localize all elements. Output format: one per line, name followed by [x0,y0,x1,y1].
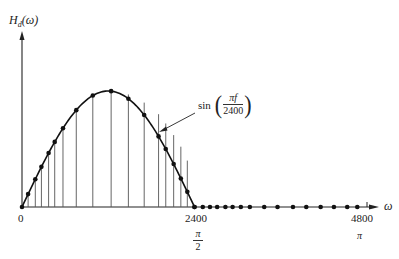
sample-point [156,134,161,139]
zero-sample-point [200,205,205,210]
zero-sample-point [230,205,235,210]
annotation-fraction: πf 2400 [223,93,243,116]
y-label-arg: (ω) [22,13,38,27]
zero-sample-point [355,205,360,210]
zero-sample-point [262,205,267,210]
zero-sample-point [208,205,213,210]
zero-sample-point [215,205,220,210]
zero-sample-point [239,205,244,210]
sample-point [185,190,190,195]
annotation-numerator: πf [229,93,237,104]
zero-sample-point [345,205,350,210]
two-denominator: 2 [196,241,201,252]
zero-sample-point [318,205,323,210]
sample-point [20,205,25,210]
sample-points [20,89,360,209]
leader-arrowhead-icon [159,127,168,133]
annotation-func: sin [198,99,211,111]
sample-point [90,93,95,98]
x-axis-arrow-icon [369,205,379,210]
zero-sample-point [248,205,253,210]
y-label-main: H [9,13,18,27]
zero-sample-point [275,205,280,210]
sine-envelope-curve [22,91,195,207]
sample-point [46,151,51,156]
y-axis-label: Hd(ω) [9,14,38,29]
sample-point [33,177,38,182]
annotation-denominator: 2400 [223,105,243,116]
sample-point [109,89,114,94]
curve-annotation: sin ( πf 2400 ) [198,93,253,116]
sample-point [74,108,79,113]
sample-point [26,192,31,197]
sample-point [171,162,176,167]
pi-numerator: π [195,229,200,240]
sample-point [126,96,131,101]
right-paren: ) [244,92,251,116]
sample-point [142,113,147,118]
zero-sample-point [291,205,296,210]
tick-sublabel-pi-over-2: π 2 [193,229,203,252]
sample-point [163,147,168,152]
x-axis-label: ω [384,200,392,212]
sample-point [52,140,57,145]
sample-stems [28,91,187,207]
sample-point [39,165,44,170]
annotation-leader-arrow [163,113,195,130]
sample-point [61,126,66,131]
zero-sample-point [304,205,309,210]
tick-label-4800: 4800 [351,213,373,224]
zero-sample-point [192,205,197,210]
sample-point [179,176,184,181]
zero-sample-point [332,205,337,210]
tick-label-2400: 2400 [185,213,207,224]
tick-label-0: 0 [18,213,24,224]
tick-sublabel-pi: π [357,231,362,241]
left-paren: ( [215,92,222,116]
y-axis-arrow-icon [20,31,25,40]
zero-sample-point [223,205,228,210]
